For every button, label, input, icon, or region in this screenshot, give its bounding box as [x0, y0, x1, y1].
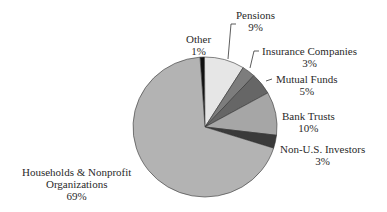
- label-pensions: Pensions 9%: [236, 9, 275, 33]
- leader-pensions: [228, 24, 236, 59]
- pie-slices: [133, 57, 277, 197]
- label-insurance: Insurance Companies 3%: [262, 45, 357, 69]
- label-non-us-investors: Non-U.S. Investors 3%: [280, 143, 365, 167]
- label-bank-trusts: Bank Trusts 10%: [282, 110, 335, 134]
- leader-insurance: [250, 51, 259, 68]
- label-households: Households & Nonprofit Organizations 69%: [22, 166, 131, 202]
- label-mutual: Mutual Funds 5%: [276, 73, 337, 97]
- label-other: Other 1%: [186, 33, 211, 57]
- leader-mutual: [266, 79, 272, 81]
